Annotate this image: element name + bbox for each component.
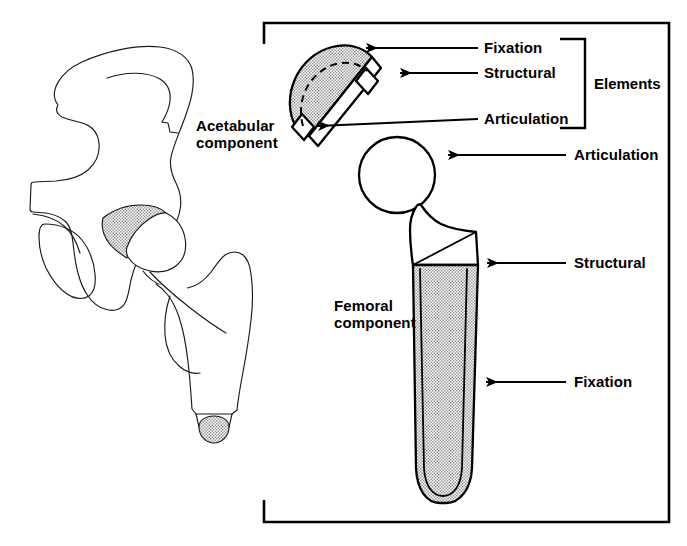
femoral-head-ball bbox=[359, 137, 435, 213]
femur-distal-cut-shaded bbox=[199, 416, 229, 443]
label-stem-structural: Structural bbox=[574, 254, 646, 271]
label-acetabular-component-line1: Acetabular bbox=[196, 117, 275, 134]
figure-root: Acetabular component Fixation Structural… bbox=[0, 0, 687, 546]
anatomy-drawing bbox=[30, 46, 253, 443]
label-elements: Elements bbox=[594, 75, 661, 92]
label-cup-structural: Structural bbox=[484, 64, 556, 81]
label-cup-articulation: Articulation bbox=[484, 110, 569, 127]
label-stem-articulation: Articulation bbox=[574, 146, 659, 163]
label-femoral-component-line2: component bbox=[334, 314, 416, 331]
label-stem-fixation: Fixation bbox=[574, 373, 632, 390]
label-femoral-component-line1: Femoral bbox=[334, 297, 393, 314]
leader-cup-articulation bbox=[318, 119, 478, 126]
acetabular-component-drawing bbox=[290, 45, 381, 146]
femoral-stem-neck-body bbox=[410, 205, 478, 265]
hip-prosthesis-diagram: Acetabular component Fixation Structural… bbox=[0, 0, 687, 546]
label-cup-fixation: Fixation bbox=[484, 39, 542, 56]
proximal-femur-outline bbox=[156, 252, 253, 414]
pelvis-outline bbox=[30, 46, 193, 310]
label-acetabular-component-line2: component bbox=[196, 134, 278, 151]
